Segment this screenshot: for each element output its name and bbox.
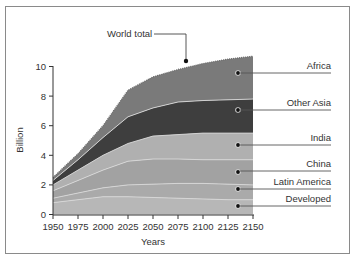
x-tick-label: 2025 (117, 221, 138, 232)
x-axis-title: Years (141, 236, 165, 247)
world-total-marker (184, 59, 188, 63)
marker-dot (236, 143, 240, 147)
y-tick-label: 6 (41, 120, 46, 131)
world-total-label: World total (107, 28, 152, 39)
x-tick-label: 2100 (192, 221, 213, 232)
marker-dot (236, 71, 240, 75)
y-tick-label: 8 (41, 91, 46, 102)
region-label: Africa (307, 60, 332, 71)
region-label: India (310, 132, 331, 143)
region-label: Developed (286, 193, 331, 204)
x-tick-label: 1950 (42, 221, 63, 232)
x-axis-ticks: 195019752000202520502075210021252150 (42, 215, 263, 232)
marker-dot (236, 170, 240, 174)
marker-dot (236, 204, 240, 208)
region-label: China (306, 158, 332, 169)
y-tick-label: 10 (35, 61, 46, 72)
marker-dot (236, 187, 240, 191)
x-tick-label: 2000 (92, 221, 113, 232)
x-tick-label: 2050 (142, 221, 163, 232)
marker-dot (236, 108, 240, 112)
world-total-leader-line (154, 34, 186, 61)
y-axis-title: Billion (14, 127, 25, 152)
region-label: Other Asia (287, 97, 332, 108)
y-tick-label: 4 (41, 150, 46, 161)
region-label: Latin America (273, 176, 331, 187)
y-axis-ticks: 0246810 (35, 61, 53, 220)
x-tick-label: 2150 (242, 221, 263, 232)
y-tick-label: 2 (41, 179, 46, 190)
y-tick-label: 0 (41, 209, 46, 220)
x-tick-label: 1975 (67, 221, 88, 232)
world-total-annotation: World total (107, 28, 188, 63)
x-tick-label: 2075 (167, 221, 188, 232)
area-layers (53, 56, 253, 214)
x-tick-label: 2125 (217, 221, 238, 232)
